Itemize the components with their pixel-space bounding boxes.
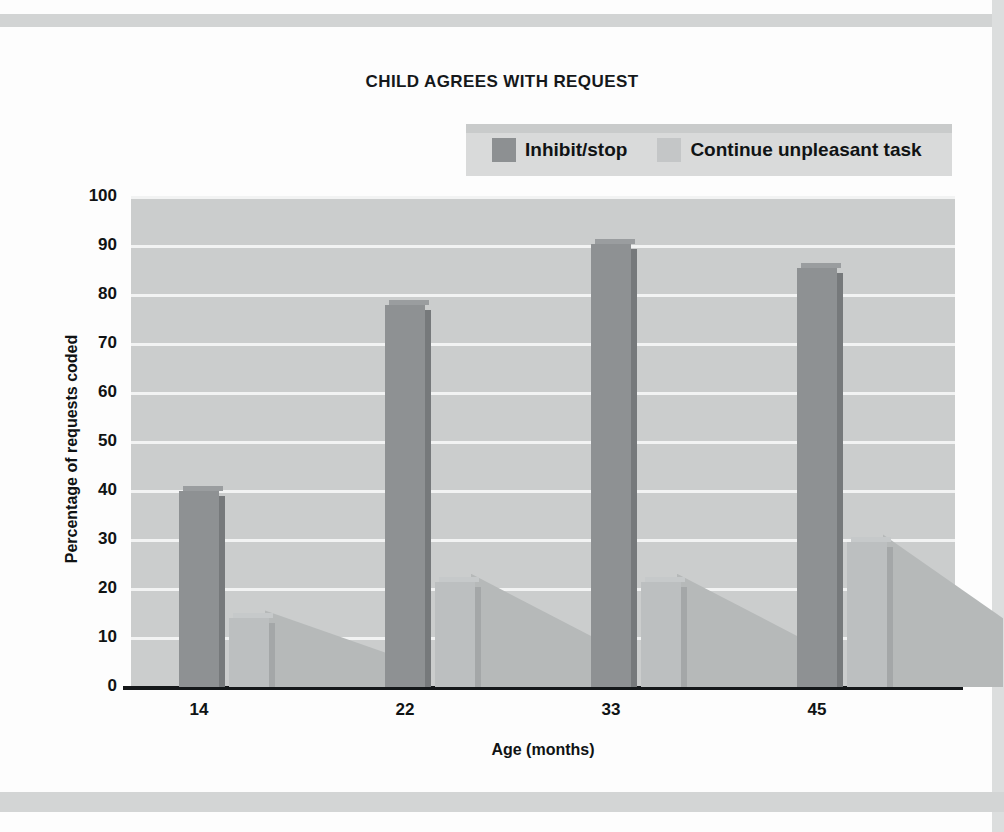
bar-face [847,542,887,687]
x-axis-tick-label: 45 [757,700,877,720]
bottom-decorative-band [0,792,1004,812]
y-axis-tick-label: 100 [57,186,117,206]
bar-side [837,273,843,687]
top-decorative-band [0,14,1004,27]
bar-face [641,582,681,687]
legend-top-shade [466,124,952,133]
gridline [131,245,955,248]
bar-side [631,249,637,687]
bar-face [229,618,269,687]
bar-side [475,587,481,687]
bar-22-continue-unpleasant-task [435,582,475,687]
bar-side [269,623,275,687]
y-axis-tick-label: 70 [57,333,117,353]
bar-top [233,613,273,618]
bar-side [887,547,893,687]
y-axis-tick-label: 80 [57,284,117,304]
bar-top [801,263,841,268]
legend-entry-inhibit-stop: Inhibit/stop [492,138,627,162]
x-axis-tick-label: 14 [139,700,259,720]
bar-side [425,310,431,687]
bar-top [595,239,635,244]
legend-label-inhibit-stop: Inhibit/stop [525,139,627,161]
bar-33-inhibit-stop [591,244,631,687]
legend-swatch-icon-inhibit-stop [492,138,516,162]
y-axis-tick-label: 50 [57,431,117,451]
bar-14-continue-unpleasant-task [229,618,269,687]
bar-45-inhibit-stop [797,268,837,687]
bar-top [851,537,891,542]
bar-14-inhibit-stop [179,491,219,687]
plot-area [131,197,955,687]
bar-shadow [883,534,1003,687]
y-axis-tick-label: 10 [57,627,117,647]
y-axis-tick-label: 20 [57,578,117,598]
bar-face [435,582,475,687]
bar-top [389,300,429,305]
bar-face [591,244,631,687]
bar-45-continue-unpleasant-task [847,542,887,687]
x-axis-tick-label: 33 [551,700,671,720]
legend-label-continue-unpleasant-task: Continue unpleasant task [690,139,921,161]
gridline [131,196,955,199]
chart-page: CHILD AGREES WITH REQUEST Inhibit/stop C… [0,0,1004,832]
bar-33-continue-unpleasant-task [641,582,681,687]
bar-top [439,577,479,582]
right-decorative-band [992,0,1004,832]
y-axis-tick-label: 40 [57,480,117,500]
bar-face [179,491,219,687]
y-axis-tick-label: 90 [57,235,117,255]
chart-legend: Inhibit/stop Continue unpleasant task [466,124,952,176]
bar-22-inhibit-stop [385,305,425,687]
bar-face [385,305,425,687]
bar-side [681,587,687,687]
y-axis-tick-label: 60 [57,382,117,402]
y-axis-tick-label: 30 [57,529,117,549]
x-axis-title: Age (months) [131,741,955,759]
bar-top [645,577,685,582]
bar-side [219,496,225,687]
legend-entry-continue-unpleasant-task: Continue unpleasant task [657,138,921,162]
bar-face [797,268,837,687]
x-axis-tick-label: 22 [345,700,465,720]
y-axis-tick-label: 0 [57,676,117,696]
legend-swatch-icon-continue-unpleasant-task [657,138,681,162]
bar-top [183,486,223,491]
bar-shadow [265,610,385,687]
chart-title: CHILD AGREES WITH REQUEST [0,72,1004,92]
